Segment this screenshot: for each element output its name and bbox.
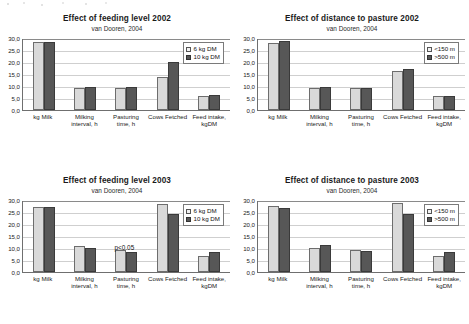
legend-item: >500 m xyxy=(427,215,455,223)
bar xyxy=(85,87,96,110)
legend-swatch-icon xyxy=(186,217,191,222)
bar xyxy=(268,206,279,272)
chart-subtitle: van Dooren, 2004 xyxy=(235,187,469,194)
y-axis: 30,025,020,015,010,05,00,0 xyxy=(235,201,257,273)
legend-item: 6 kg DM xyxy=(186,207,220,215)
bar-group xyxy=(260,39,297,110)
legend-swatch-icon xyxy=(186,47,191,52)
chart-legend: 6 kg DM10 kg DM xyxy=(183,42,224,64)
bar xyxy=(209,95,220,110)
legend-item: 10 kg DM xyxy=(186,53,220,61)
bar xyxy=(279,41,290,110)
x-axis-labels: kg MilkMilking interval, hPasturing time… xyxy=(257,275,465,290)
figure-sheet: Effect of feeding level 2002 van Dooren,… xyxy=(0,0,469,324)
bar xyxy=(44,207,55,272)
bar xyxy=(44,42,55,110)
bar-group xyxy=(301,39,338,110)
bar xyxy=(168,62,179,110)
chart-legend: <150 m>500 m xyxy=(424,42,459,64)
chart-title: Effect of feeding level 2003 xyxy=(0,176,234,185)
x-axis-label: kg Milk xyxy=(258,275,298,290)
y-axis-tick: 5,0 xyxy=(12,258,20,264)
y-axis: 30,025,020,015,010,05,00,0 xyxy=(0,201,22,273)
bar-group xyxy=(108,39,145,110)
x-axis-label: Milking interval, h xyxy=(300,113,340,128)
x-axis-label: Cows Fetched xyxy=(148,113,188,128)
y-axis-tick: 30,0 xyxy=(8,36,20,42)
legend-label: 6 kg DM xyxy=(194,45,217,53)
bar-group xyxy=(66,201,103,272)
legend-swatch-icon xyxy=(427,47,432,52)
plot-area: 30,025,020,015,010,05,00,0 kg MilkMilkin… xyxy=(235,201,469,273)
bar xyxy=(361,251,372,272)
x-axis-label: Milking interval, h xyxy=(300,275,340,290)
bar-group xyxy=(260,201,297,272)
x-axis-label: Pasturing time, h xyxy=(106,275,146,290)
bar xyxy=(115,88,126,110)
chart-subtitle: van Dooren, 2004 xyxy=(0,187,234,194)
legend-item: >500 m xyxy=(427,53,455,61)
plot-area: 30,025,020,015,010,05,00,0 kg MilkMilkin… xyxy=(235,39,469,111)
legend-label: 10 kg DM xyxy=(194,53,220,61)
y-axis-tick: 10,0 xyxy=(243,246,255,252)
x-axis-labels: kg MilkMilking interval, hPasturing time… xyxy=(257,113,465,128)
y-axis-tick: 10,0 xyxy=(8,246,20,252)
bar xyxy=(433,96,444,110)
bar xyxy=(444,96,455,110)
bar-group xyxy=(343,201,380,272)
y-axis-tick: 15,0 xyxy=(8,234,20,240)
y-axis-tick: 25,0 xyxy=(8,48,20,54)
bar xyxy=(157,204,168,272)
chart-subtitle: van Dooren, 2004 xyxy=(0,25,234,32)
bar-group xyxy=(301,201,338,272)
legend-swatch-icon xyxy=(186,209,191,214)
x-axis-label: kg Milk xyxy=(23,113,63,128)
x-axis-label: Pasturing time, h xyxy=(341,113,381,128)
y-axis-tick: 15,0 xyxy=(243,72,255,78)
bar-group xyxy=(25,39,62,110)
bar-group xyxy=(149,201,186,272)
y-axis-tick: 5,0 xyxy=(12,96,20,102)
legend-item: 6 kg DM xyxy=(186,45,220,53)
bar xyxy=(279,208,290,272)
legend-item: 10 kg DM xyxy=(186,215,220,223)
bar xyxy=(320,87,331,110)
legend-label: >500 m xyxy=(434,215,455,223)
y-axis-tick: 15,0 xyxy=(243,234,255,240)
y-axis-tick: 20,0 xyxy=(243,222,255,228)
x-axis-label: kg Milk xyxy=(258,113,298,128)
x-axis-label: Pasturing time, h xyxy=(341,275,381,290)
y-axis-tick: 25,0 xyxy=(243,210,255,216)
significance-annotation: p<0.05 xyxy=(115,244,135,251)
legend-label: >500 m xyxy=(434,53,455,61)
y-axis-tick: 30,0 xyxy=(8,198,20,204)
bar-group xyxy=(384,201,421,272)
legend-swatch-icon xyxy=(427,55,432,60)
legend-item: <150 m xyxy=(427,45,455,53)
bar-group xyxy=(149,39,186,110)
chart-panel-feeding-2002: Effect of feeding level 2002 van Dooren,… xyxy=(0,0,234,162)
chart-subtitle: van Dooren, 2004 xyxy=(235,25,469,32)
bar-group xyxy=(108,201,145,272)
bar xyxy=(392,71,403,110)
legend-label: 10 kg DM xyxy=(194,215,220,223)
bar xyxy=(350,88,361,110)
bar xyxy=(33,207,44,272)
plot-area: 30,025,020,015,010,05,00,0 kg MilkMilkin… xyxy=(0,39,234,111)
chart-title: Effect of feeding level 2002 xyxy=(0,14,234,23)
plot-area: 30,025,020,015,010,05,00,0 p<0.05 kg Mil… xyxy=(0,201,234,273)
bar xyxy=(115,250,126,272)
y-axis-tick: 10,0 xyxy=(8,84,20,90)
bar-group xyxy=(25,201,62,272)
x-axis-label: Cows Fetched xyxy=(383,113,423,128)
x-axis-labels: kg MilkMilking interval, hPasturing time… xyxy=(22,275,230,290)
bar xyxy=(74,88,85,110)
bar xyxy=(444,252,455,272)
x-axis-label: Feed intake, kgDM xyxy=(189,113,229,128)
y-axis-tick: 25,0 xyxy=(8,210,20,216)
x-axis-label: Feed intake, kgDM xyxy=(424,275,464,290)
x-axis-labels: kg MilkMilking interval, hPasturing time… xyxy=(22,113,230,128)
y-axis-tick: 5,0 xyxy=(247,258,255,264)
bar xyxy=(403,69,414,110)
bar xyxy=(74,246,85,272)
